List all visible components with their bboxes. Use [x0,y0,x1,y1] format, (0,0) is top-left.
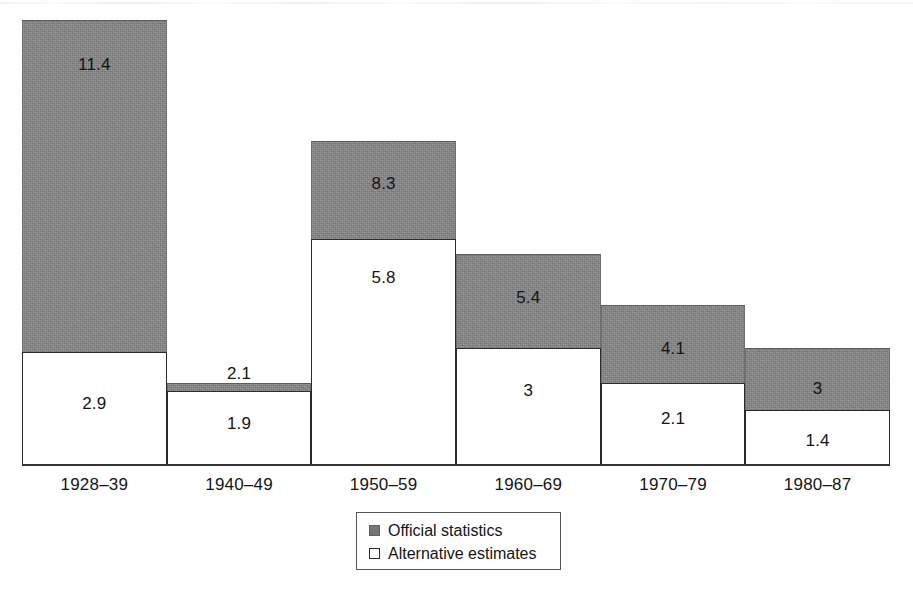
x-axis-tick-labels: 1928–39 1940–49 1950–59 1960–69 1970–79 … [22,474,890,500]
legend-item-official-statistics: Official statistics [369,519,560,542]
bar-value-official-1980-87: 3 [746,380,889,397]
x-tick-label-1940-49: 1940–49 [167,474,312,496]
legend-label-alternative-estimates: Alternative estimates [388,546,537,562]
bar-alternative-1980-87: 1.4 [745,410,890,465]
legend-swatch-filled-square-icon [369,525,380,536]
bar-value-alternative-1940-49: 1.9 [168,415,311,432]
x-tick-label-1980-87: 1980–87 [745,474,890,496]
bar-value-official-1970-79: 4.1 [602,340,745,357]
bar-value-alternative-1950-59: 5.8 [312,269,455,286]
legend-label-official-statistics: Official statistics [388,523,502,539]
bar-alternative-1950-59: 5.8 [311,239,456,465]
legend-swatch-hollow-square-icon [369,548,380,559]
bar-value-alternative-1980-87: 1.4 [746,432,889,449]
bar-value-official-1940-49: 2.1 [168,365,311,382]
legend-item-alternative-estimates: Alternative estimates [369,542,560,565]
bar-alternative-1928-39: 2.9 [22,352,167,465]
x-axis-line [22,464,890,466]
x-tick-label-1960-69: 1960–69 [456,474,601,496]
chart-legend: Official statistics Alternative estimate… [356,512,561,570]
bar-value-official-1960-69: 5.4 [457,289,600,306]
bar-value-alternative-1970-79: 2.1 [602,410,745,427]
bar-value-alternative-1928-39: 2.9 [23,395,166,412]
x-tick-label-1970-79: 1970–79 [601,474,746,496]
bar-value-official-1928-39: 11.4 [23,56,166,73]
bar-alternative-1960-69: 3 [456,348,601,465]
x-tick-label-1950-59: 1950–59 [311,474,456,496]
bar-alternative-1940-49: 1.9 [167,391,312,465]
bar-chart: 11.4 2.9 2.1 1.9 8.3 5.8 [0,0,913,597]
bar-value-alternative-1960-69: 3 [457,382,600,399]
plot-area: 11.4 2.9 2.1 1.9 8.3 5.8 [22,14,890,465]
bar-value-official-1950-59: 8.3 [312,175,455,192]
x-tick-label-1928-39: 1928–39 [22,474,167,496]
bar-alternative-1970-79: 2.1 [601,383,746,465]
